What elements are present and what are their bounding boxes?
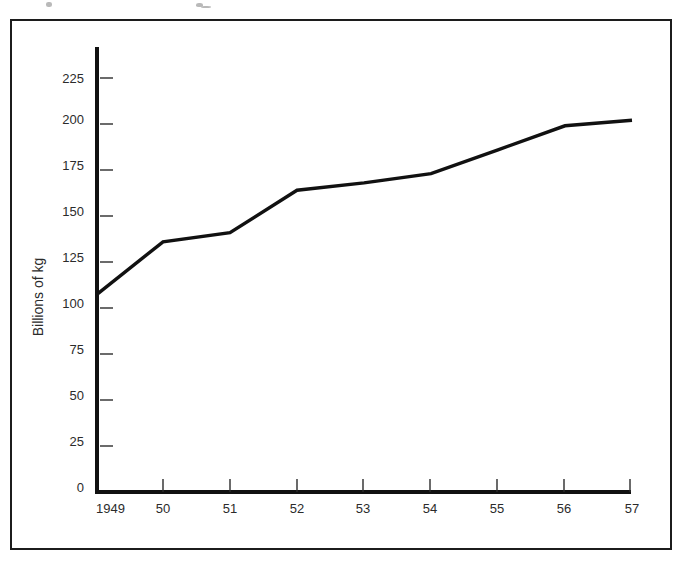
- y-axis-title: Billions of kg: [30, 258, 46, 337]
- line-chart: Billions of kg 225 200 175 150 125 100 7…: [0, 0, 684, 569]
- y-tick-label-75: 75: [70, 342, 84, 357]
- x-tick-label-54: 54: [423, 501, 437, 516]
- y-tick-label-200: 200: [62, 112, 84, 127]
- y-axis-ticks: [100, 78, 113, 446]
- x-tick-label-51: 51: [223, 501, 237, 516]
- y-tick-label-175: 175: [62, 158, 84, 173]
- y-tick-label-100: 100: [62, 296, 84, 311]
- data-series-line: [96, 120, 632, 295]
- y-tick-label-0: 0: [77, 480, 84, 495]
- y-tick-label-125: 125: [62, 250, 84, 265]
- y-tick-label-25: 25: [70, 434, 84, 449]
- x-tick-label-52: 52: [290, 501, 304, 516]
- x-tick-label-55: 55: [490, 501, 504, 516]
- x-tick-label-50: 50: [156, 501, 170, 516]
- x-tick-label-53: 53: [356, 501, 370, 516]
- y-tick-label-150: 150: [62, 204, 84, 219]
- chart-canvas: Billions of kg 225 200 175 150 125 100 7…: [0, 0, 684, 569]
- x-tick-label-56: 56: [557, 501, 571, 516]
- x-tick-label-1949: 1949: [96, 501, 125, 516]
- y-tick-label-225: 225: [62, 71, 84, 86]
- x-tick-label-57: 57: [625, 501, 639, 516]
- y-tick-label-50: 50: [70, 388, 84, 403]
